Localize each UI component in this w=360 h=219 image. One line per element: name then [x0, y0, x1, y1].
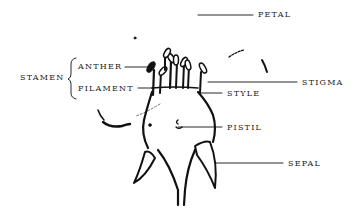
label-pistil: PISTIL — [227, 123, 262, 133]
label-sepal: SEPAL — [288, 159, 321, 169]
flower-diagram: PETAL STAMEN ANTHER FILAMENT STIGMA STYL… — [0, 0, 360, 219]
label-style: STYLE — [227, 89, 260, 99]
label-petal: PETAL — [258, 10, 291, 20]
label-stigma: STIGMA — [302, 78, 344, 88]
label-filament: FILAMENT — [78, 84, 134, 94]
label-stamen: STAMEN — [20, 73, 64, 83]
stamen-bracket — [68, 58, 76, 99]
flower-drawing — [0, 0, 360, 219]
label-anther: ANTHER — [78, 62, 122, 72]
